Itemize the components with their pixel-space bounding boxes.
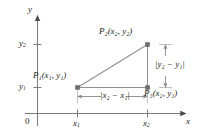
vertical-distance-label: |y₂ − y₁| [155,60,185,69]
x-axis-label: x [186,117,190,126]
x2-subscript: 2 [147,122,150,128]
x-tick-label-x2: x2 [143,119,150,129]
y-tick-label-y2: y2 [19,39,26,49]
figure-canvas [0,0,201,140]
y1-subscript: 1 [23,85,26,91]
x1-subscript: 1 [77,122,80,128]
distance-formula-figure: y x 0 y2 y1 x1 x2 P₁(x₁, y₁) P₂(x₂, y₂) … [0,0,201,140]
point-label-p3: P₃(x₂, y₁) [144,89,177,98]
y-tick-label-y1: y1 [19,82,26,92]
point-label-p2: P₂(x₂, y₂) [99,27,132,36]
origin-label: 0 [25,117,30,126]
y2-subscript: 2 [23,42,26,48]
x-tick-label-x1: x1 [73,119,80,129]
y-axis-label: y [28,5,32,14]
point-marker-p1 [75,85,80,90]
triangle-hypotenuse [78,45,148,88]
point-marker-p2 [145,42,150,47]
point-label-p1: P₁(x₁, y₁) [33,71,66,80]
horizontal-distance-label: |x₂ − x₁| [100,91,130,100]
